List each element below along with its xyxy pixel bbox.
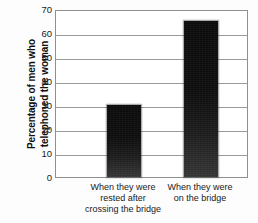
y-axis-title: Percentage of men who telephoned the wom… xyxy=(0,10,30,178)
plot-area xyxy=(55,10,248,178)
y-axis-tick-label: 10 xyxy=(28,149,52,159)
x-axis-category-label-line: on the bridge xyxy=(140,193,258,204)
y-axis-tick-label: 70 xyxy=(28,5,52,15)
y-axis-tick-label: 50 xyxy=(28,53,52,63)
gridline xyxy=(56,155,247,156)
gridline xyxy=(56,107,247,108)
gridline xyxy=(56,131,247,132)
y-axis-tick-label: 0 xyxy=(28,173,52,183)
x-axis-category-label: When they wereon the bridge xyxy=(140,182,258,204)
bar-chart-figure: Percentage of men who telephoned the wom… xyxy=(0,0,258,223)
gridline xyxy=(56,59,247,60)
y-axis-tick-label: 30 xyxy=(28,101,52,111)
y-axis-tick-label: 40 xyxy=(28,77,52,87)
bar xyxy=(184,21,218,177)
x-axis-category-label-line: crossing the bridge xyxy=(63,204,183,215)
y-axis-tick-label: 20 xyxy=(28,125,52,135)
gridline xyxy=(56,35,247,36)
x-axis-category-label-line: When they were xyxy=(140,182,258,193)
gridline xyxy=(56,83,247,84)
bar xyxy=(107,105,141,177)
y-axis-tick-label: 60 xyxy=(28,29,52,39)
